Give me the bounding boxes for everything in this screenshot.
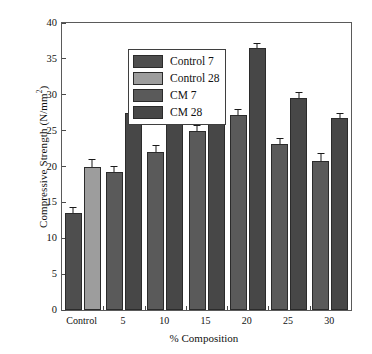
y-tick-label: 20 (23, 159, 57, 174)
legend-label: CM 28 (170, 106, 202, 119)
x-tick-mark (227, 306, 228, 310)
x-axis-category-label: 25 (283, 315, 293, 326)
x-tick-mark (145, 306, 146, 310)
error-bar (257, 44, 258, 48)
y-tick-label: 15 (23, 194, 57, 209)
y-tick-label: 10 (23, 230, 57, 245)
legend-label: CM 7 (170, 89, 197, 102)
error-bar-cap (254, 43, 261, 44)
legend-swatch (133, 55, 163, 68)
bar (125, 113, 142, 310)
x-tick-mark (310, 306, 311, 310)
plot-area: 0510152025303540 Control 7Control 28CM 7… (61, 22, 352, 311)
error-bar (92, 160, 93, 166)
compressive-strength-bar-chart: Compressive Strength (N/mm2) 05101520253… (0, 0, 372, 354)
x-tick-mark (186, 306, 187, 310)
error-bar (279, 139, 280, 143)
y-tick-label: 35 (23, 51, 57, 66)
x-tick-mark (103, 306, 104, 310)
bar (249, 48, 266, 310)
legend-swatch (133, 89, 163, 102)
error-bar-cap (235, 109, 242, 110)
error-bar (238, 110, 239, 115)
error-bar (197, 126, 198, 131)
bar (166, 95, 183, 310)
x-axis-category-label: 30 (324, 315, 334, 326)
legend-item: Control 28 (133, 70, 220, 87)
error-bar-cap (295, 92, 302, 93)
error-bar-cap (336, 113, 343, 114)
legend-swatch (133, 106, 163, 119)
y-tick-label: 5 (23, 266, 57, 281)
error-bar-cap (70, 207, 77, 208)
y-tick-mark (62, 166, 66, 167)
error-bar (114, 167, 115, 171)
bar (147, 152, 164, 310)
y-tick-mark (62, 94, 66, 95)
error-bar-cap (89, 159, 96, 160)
x-axis-category-label: 10 (159, 315, 169, 326)
x-axis-category-label: 5 (120, 315, 125, 326)
y-tick-mark (62, 58, 66, 59)
bar (290, 98, 307, 310)
error-bar-cap (111, 166, 118, 167)
y-tick-label: 40 (23, 15, 57, 30)
x-axis-category-label: 20 (242, 315, 252, 326)
bar (189, 131, 206, 310)
error-bar (339, 114, 340, 117)
y-tick-label: 30 (23, 87, 57, 102)
bar (84, 167, 101, 311)
bar (312, 161, 329, 310)
bar (271, 144, 288, 310)
legend: Control 7Control 28CM 7CM 28 (128, 49, 226, 125)
y-tick-label: 25 (23, 123, 57, 138)
error-bar-cap (276, 138, 283, 139)
legend-label: Control 7 (170, 55, 214, 68)
bar (65, 213, 82, 310)
x-axis-category-label: 15 (201, 315, 211, 326)
x-axis-title: % Composition (56, 332, 352, 344)
x-tick-mark (268, 306, 269, 310)
legend-item: Control 7 (133, 53, 220, 70)
bar (106, 172, 123, 310)
y-tick-mark (62, 202, 66, 203)
error-bar (155, 146, 156, 152)
legend-item: CM 7 (133, 87, 220, 104)
error-bar (298, 93, 299, 98)
error-bar-cap (317, 153, 324, 154)
error-bar (73, 208, 74, 214)
x-axis-category-label: Control (66, 315, 97, 326)
legend-item: CM 28 (133, 104, 220, 121)
error-bar-cap (152, 145, 159, 146)
error-bar (320, 154, 321, 160)
legend-swatch (133, 72, 163, 85)
bar (230, 115, 247, 310)
legend-label: Control 28 (170, 72, 220, 85)
bar (331, 118, 348, 310)
y-tick-mark (62, 130, 66, 131)
y-tick-label: 0 (23, 302, 57, 317)
y-tick-mark (62, 23, 66, 24)
